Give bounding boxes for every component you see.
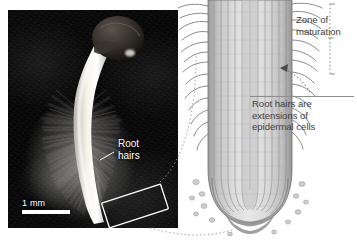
seedling-illustration [8,10,178,228]
scale-bar-line [22,210,70,214]
scale-bar: 1 mm [22,198,70,214]
seedling-photograph: Root hairs 1 mm [8,10,178,228]
root-hairs-photo-label: Root hairs [118,138,140,161]
root-hairs-figure: Root hairs 1 mm [0,0,357,249]
epi-note-line1: Root hairs are [252,98,315,110]
diagram-root-hairs-left [178,4,208,150]
root-hairs-label-line1: Root [118,138,140,150]
epi-note-line2: extensions of [252,110,315,122]
note-divider [250,96,354,97]
zone-label-line2: maturation [296,26,341,38]
epidermal-cells-note: Root hairs are extensions of epidermal c… [252,98,315,133]
scale-bar-label: 1 mm [22,198,70,208]
zone-label-line1: Zone of [296,14,341,26]
epi-note-line3: epidermal cells [252,121,315,133]
root-hairs-label-line2: hairs [118,150,140,162]
seed-highlight [125,50,135,57]
zone-of-maturation-label: Zone of maturation [296,14,341,37]
